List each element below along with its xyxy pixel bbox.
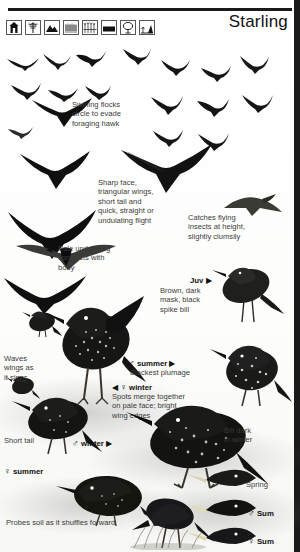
park-tree-icon[interactable] — [120, 20, 136, 35]
grassland-icon[interactable] — [82, 20, 98, 35]
female-symbol-glyph: ♀ — [4, 466, 11, 476]
male-symbol-glyph: ♂ — [248, 508, 255, 518]
flock-note: Swirling flocks circle to evade foraging… — [72, 100, 148, 128]
female-summer-label: ♀ summer — [4, 466, 43, 477]
tree-icon[interactable] — [25, 20, 41, 35]
female-symbol-glyph: ♀ — [248, 536, 255, 546]
male-sum-label-text: Sum — [257, 509, 274, 518]
arrow-left-glyph: ◀ — [112, 383, 118, 392]
underwing-note: Pale underwing contrasts with body — [58, 244, 124, 272]
flying-starling-silhouette — [160, 58, 190, 77]
field-icon[interactable] — [101, 20, 117, 35]
woodland-edge-icon[interactable] — [139, 20, 155, 35]
mountain-icon[interactable] — [44, 20, 60, 35]
juvenile-label-text: Juv — [190, 276, 203, 285]
male-winter-label: ♂ winter ▶ — [72, 438, 112, 449]
flying-starling-large — [18, 146, 92, 192]
probes-soil-note: Probes soil as it shuffles forward — [6, 518, 156, 527]
flying-starling-silhouette — [196, 96, 230, 118]
flight-note: Sharp face, triangular wings, short tail… — [98, 178, 176, 225]
flying-starling-silhouette — [238, 54, 270, 76]
male-winter-label-text: winter — [81, 439, 104, 448]
field-guide-page: Starling — [0, 0, 300, 552]
bill-dark-note: Bill dark in winter — [224, 426, 278, 445]
male-summer-desc: Blackest plumage — [130, 368, 214, 377]
male-symbol-glyph: ♂ — [128, 358, 135, 368]
catches-insects-note: Catches flying insects at height, slight… — [188, 213, 270, 241]
female-winter-label-text: winter — [129, 383, 152, 392]
short-tail-note: Short tail — [4, 436, 58, 445]
building-icon[interactable] — [6, 20, 22, 35]
illustration-plate: Swirling flocks circle to evade foraging… — [0, 38, 294, 552]
arrow-right-glyph: ▶ — [106, 439, 112, 448]
arrow-right-glyph: ▶ — [206, 276, 212, 285]
female-symbol-glyph: ♀ — [120, 382, 127, 392]
juvenile-note: Brown, dark mask, black spike bill — [160, 286, 222, 314]
male-summer-label-text: summer — [137, 359, 167, 368]
flying-starling-silhouette — [76, 50, 106, 69]
page-edge-bar — [294, 0, 300, 552]
female-sum-label-text: Sum — [257, 537, 274, 546]
arrow-right-glyph: ▶ — [169, 359, 175, 368]
flying-starling-silhouette — [122, 46, 152, 66]
female-sum-label: ♀ Sum — [248, 536, 274, 547]
header-rule — [8, 8, 292, 11]
arrow-left-glyph: ◀ — [46, 245, 52, 254]
flying-starling-silhouette — [6, 56, 40, 74]
male-symbol-glyph: ♂ — [72, 438, 79, 448]
male-sum-label: ♂ Sum — [248, 508, 274, 519]
underwing-arrow: ◀ — [46, 245, 52, 255]
habitat-icon-row — [6, 20, 155, 35]
flying-starling-silhouette — [42, 52, 72, 72]
female-summer-label-text: summer — [13, 467, 43, 476]
juvenile-label: Juv ▶ — [190, 276, 212, 286]
spring-label: Spring — [246, 480, 268, 489]
page-title: Starling — [229, 12, 288, 32]
reedbed-icon[interactable] — [63, 20, 79, 35]
flying-starling-silhouette — [240, 92, 274, 114]
flying-starling-silhouette — [200, 64, 232, 84]
flying-starling-silhouette — [8, 126, 34, 140]
flying-starling-silhouette — [150, 94, 184, 116]
